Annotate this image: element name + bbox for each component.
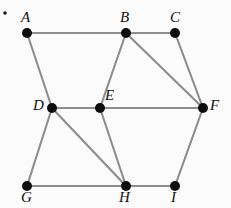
vertex-label-d: D xyxy=(33,98,44,113)
graph-edge-f-i xyxy=(175,108,203,186)
graph-diagram: ABCDEFGHI xyxy=(0,0,231,208)
graph-edge-e-h xyxy=(100,108,126,186)
graph-edge-c-f xyxy=(175,33,203,108)
vertex-label-c: C xyxy=(170,10,180,25)
vertex-label-g: G xyxy=(21,190,32,205)
graph-vertex-a[interactable] xyxy=(22,28,32,38)
vertex-label-b: B xyxy=(120,10,129,25)
graph-edge-b-f xyxy=(126,33,203,108)
graph-vertex-c[interactable] xyxy=(170,28,180,38)
vertex-label-i: I xyxy=(171,190,176,205)
vertex-label-f: F xyxy=(210,98,219,113)
vertex-label-h: H xyxy=(119,190,130,205)
graph-edge-d-h xyxy=(52,108,126,186)
graph-vertex-b[interactable] xyxy=(121,28,131,38)
vertex-label-e: E xyxy=(105,88,114,103)
graph-edge-d-g xyxy=(27,108,52,186)
graph-vertex-f[interactable] xyxy=(198,103,208,113)
graph-vertex-d[interactable] xyxy=(47,103,57,113)
bullet-point-icon xyxy=(3,11,7,15)
vertices-group xyxy=(22,28,208,191)
graph-vertex-e[interactable] xyxy=(95,103,105,113)
bullet-marker xyxy=(3,11,7,15)
vertex-label-a: A xyxy=(21,10,30,25)
